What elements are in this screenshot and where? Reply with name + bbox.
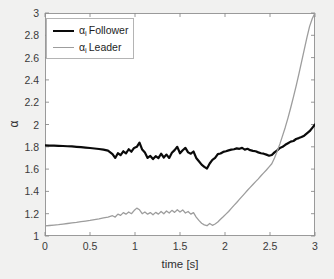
x-tick-label: 0.5: [75, 241, 105, 251]
x-tick-label: 0: [30, 241, 60, 251]
legend-item-follower[interactable]: αiFollower: [47, 22, 135, 39]
legend-line-swatch-leader: [53, 47, 74, 48]
y-tick-label: 2.6: [9, 53, 39, 63]
x-tick-label: 1: [120, 241, 150, 251]
y-tick-label: 1: [9, 231, 39, 241]
x-tick-label: 3: [300, 241, 330, 251]
y-tick-label: 3: [9, 8, 39, 18]
y-tick-label: 2.8: [9, 30, 39, 40]
x-tick-label: 2: [210, 241, 240, 251]
y-tick-label: 1.4: [9, 186, 39, 196]
chart-legend: αiFollower αiLeader: [46, 18, 134, 59]
x-tick-label: 2.5: [255, 241, 285, 251]
y-tick-label: 2.4: [9, 75, 39, 85]
y-tick-label: 1.2: [9, 209, 39, 219]
legend-label-leader: αiLeader: [79, 41, 121, 55]
legend-name-follower: Follower: [89, 24, 129, 36]
y-axis-label: α: [7, 104, 21, 144]
y-tick-label: 1.6: [9, 164, 39, 174]
legend-label-follower: αiFollower: [79, 24, 128, 38]
legend-item-leader[interactable]: αiLeader: [47, 39, 135, 56]
legend-name-leader: Leader: [89, 41, 122, 53]
x-axis-label: time [s]: [45, 258, 315, 270]
figure-canvas: 11.21.41.61.822.22.42.62.83 00.511.522.5…: [0, 0, 334, 279]
legend-line-swatch-follower: [53, 30, 74, 32]
x-tick-label: 1.5: [165, 241, 195, 251]
